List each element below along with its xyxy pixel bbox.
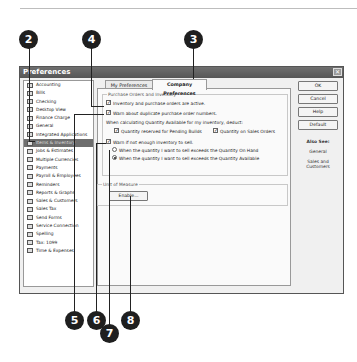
- default-button[interactable]: Default: [298, 120, 338, 130]
- sidebar-item-label: Sales Tax: [36, 206, 56, 211]
- spelling-icon: [27, 232, 33, 237]
- cancel-button[interactable]: Cancel: [298, 94, 338, 104]
- sales-customers-icon: [27, 199, 33, 204]
- send-forms-icon: [27, 215, 33, 220]
- title-bar: Preferences ✕: [20, 67, 343, 78]
- calc-qty-label: When calculating Quantity Available for …: [106, 120, 243, 126]
- desktop-view-icon: [27, 107, 33, 112]
- sidebar-item[interactable]: Multiple Currencies: [24, 156, 93, 164]
- sidebar-item-label: Sales & Customers: [36, 198, 78, 203]
- warn-duplicate-po-checkbox[interactable]: ✓Warn about duplicate purchase order num…: [106, 111, 217, 117]
- sidebar-item[interactable]: Payroll & Employees: [24, 172, 93, 180]
- company-preferences-panel: Purchase Orders and Inventory ✓Inventory…: [97, 88, 291, 286]
- tab-label: Company Preferences: [163, 82, 195, 96]
- sidebar-item-label: Spelling: [36, 231, 54, 236]
- sidebar-item[interactable]: Payments: [24, 164, 93, 172]
- tab-company-preferences[interactable]: Company Preferences: [152, 79, 207, 90]
- sidebar-item[interactable]: Send Forms: [24, 214, 93, 222]
- sidebar-item-label: Desktop View: [36, 107, 66, 112]
- preferences-category-list[interactable]: AccountingBillsCheckingDesktop ViewFinan…: [23, 80, 94, 287]
- sidebar-item[interactable]: Jobs & Estimates: [24, 147, 93, 155]
- help-button[interactable]: Help: [298, 107, 338, 117]
- radio-label: When the quantity I want to sell exceeds…: [119, 148, 258, 153]
- sidebar-item[interactable]: Finance Charge: [24, 114, 93, 122]
- sidebar-item-label: Reports & Graphs: [36, 190, 75, 195]
- also-see-sales-link[interactable]: Sales and Customers: [298, 159, 338, 169]
- checkbox-label: Quantity reserved for Pending Builds: [121, 129, 202, 134]
- also-see-general-link[interactable]: General: [298, 149, 338, 154]
- checkbox-icon: ✓: [106, 139, 111, 144]
- sidebar-item-label: Tax: 1099: [36, 240, 57, 245]
- sidebar-item[interactable]: Accounting: [24, 81, 93, 89]
- radio-qty-on-hand[interactable]: When the quantity I want to sell exceeds…: [112, 148, 258, 154]
- callout-2-line: [29, 40, 30, 141]
- close-button[interactable]: ✕: [333, 68, 342, 76]
- sidebar-item-label: Items & Inventory: [36, 140, 75, 145]
- enable-uom-button[interactable]: Enable...: [109, 191, 148, 201]
- multiple-currencies-icon: [27, 157, 33, 162]
- reports-graphs-icon: [27, 190, 33, 195]
- sidebar-item-label: Service Connection: [36, 223, 78, 228]
- sidebar-item[interactable]: General: [24, 122, 93, 130]
- callout-7: 7: [100, 324, 119, 343]
- callout-5-line-h: [74, 114, 104, 115]
- radio-icon: [112, 155, 117, 160]
- preferences-dialog: Preferences ✕ AccountingBillsCheckingDes…: [19, 66, 344, 294]
- sidebar-item-label: Multiple Currencies: [36, 157, 78, 162]
- qty-pending-builds-checkbox[interactable]: ✓Quantity reserved for Pending Builds: [114, 129, 202, 135]
- sidebar-item[interactable]: Tax: 1099: [24, 239, 93, 247]
- checkbox-label: Quantity on Sales Orders: [220, 129, 275, 134]
- callout-6-line-h: [96, 143, 106, 144]
- checkbox-icon: ✓: [106, 100, 111, 105]
- sidebar-item[interactable]: Sales & Customers: [24, 197, 93, 205]
- also-see-heading: Also See:: [298, 139, 338, 144]
- callout-5-line: [74, 114, 75, 316]
- sidebar-item[interactable]: Checking: [24, 98, 93, 106]
- time-expenses-icon: [27, 248, 33, 253]
- callout-3: 3: [184, 30, 203, 49]
- close-icon: ✕: [335, 68, 340, 75]
- bills-icon: [27, 91, 33, 96]
- reminders-icon: [27, 182, 33, 187]
- payments-icon: [27, 165, 33, 170]
- sidebar-item-label: Jobs & Estimates: [36, 148, 73, 153]
- sidebar-item-label: Payments: [36, 165, 58, 170]
- sidebar-item[interactable]: Reminders: [24, 181, 93, 189]
- unit-of-measure-group: Unit of Measure Enable...: [97, 184, 288, 206]
- warn-not-enough-checkbox[interactable]: ✓Warn if not enough inventory to sell.: [106, 140, 193, 146]
- callout-4-line-h: [91, 106, 104, 107]
- sidebar-item[interactable]: Integrated Applications: [24, 131, 93, 139]
- sidebar-item[interactable]: Sales Tax: [24, 205, 93, 213]
- radio-label: When the quantity I want to sell exceeds…: [119, 156, 259, 161]
- callout-2-line-h: [29, 141, 35, 142]
- sidebar-item[interactable]: Spelling: [24, 230, 93, 238]
- callout-4: 4: [82, 30, 101, 49]
- sidebar-item[interactable]: Service Connection: [24, 222, 93, 230]
- qty-sales-orders-checkbox[interactable]: ✓Quantity on Sales Orders: [213, 129, 275, 135]
- callout-8: 8: [121, 311, 140, 330]
- accounting-icon: [27, 83, 33, 88]
- sidebar-item-label: Time & Expenses: [36, 248, 74, 253]
- callout-5: 5: [65, 311, 84, 330]
- radio-qty-available[interactable]: When the quantity I want to sell exceeds…: [112, 156, 259, 162]
- service-connection-icon: [27, 224, 33, 229]
- sidebar-item[interactable]: Reports & Graphs: [24, 189, 93, 197]
- inventory-active-checkbox[interactable]: ✓Inventory and purchase orders are activ…: [106, 101, 205, 107]
- sidebar-item[interactable]: Bills: [24, 89, 93, 97]
- sidebar-item[interactable]: Time & Expenses: [24, 247, 93, 255]
- purchase-orders-group: Purchase Orders and Inventory ✓Inventory…: [102, 94, 288, 176]
- jobs-estimates-icon: [27, 149, 33, 154]
- checkbox-label: Warn if not enough inventory to sell.: [113, 140, 193, 145]
- sidebar-item-label: Finance Charge: [36, 115, 70, 120]
- finance-charge-icon: [27, 116, 33, 121]
- sidebar-item-label: Bills: [36, 90, 45, 95]
- sidebar-item-label: Reminders: [36, 182, 59, 187]
- checkbox-label: Inventory and purchase orders are active…: [113, 101, 205, 106]
- sales-tax-icon: [27, 207, 33, 212]
- checking-icon: [27, 99, 33, 104]
- window-title: Preferences: [23, 68, 70, 76]
- callout-8-line: [130, 196, 131, 316]
- callout-7-line: [109, 150, 110, 328]
- ok-button[interactable]: OK: [298, 81, 338, 91]
- sidebar-item[interactable]: Desktop View: [24, 106, 93, 114]
